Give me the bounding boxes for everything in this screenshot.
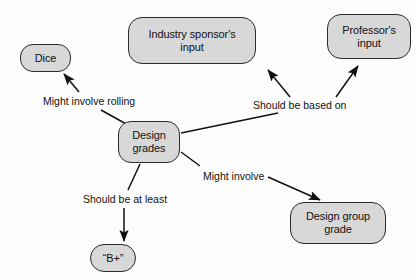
edge-label-should-be-at-least: Should be at least — [81, 193, 169, 205]
node-dice[interactable]: Dice — [20, 44, 71, 72]
node-industry-sponsors-input-label: Industry sponsor's input — [144, 28, 239, 54]
node-professors-input[interactable]: Professor's input — [327, 14, 411, 59]
edge-label-might-involve: Might involve — [201, 170, 266, 182]
node-industry-sponsors-input[interactable]: Industry sponsor's input — [128, 17, 256, 64]
node-design-grades[interactable]: Design grades — [118, 121, 180, 163]
node-design-group-grade-label: Design group grade — [302, 210, 374, 236]
node-design-grades-label: Design grades — [128, 129, 170, 155]
node-professors-input-label: Professor's input — [338, 24, 400, 50]
node-design-group-grade[interactable]: Design group grade — [290, 202, 386, 244]
edge-label-should-be-based-on: Should be based on — [251, 99, 348, 111]
diagram-canvas: Dice Industry sponsor's input Professor'… — [0, 0, 418, 280]
node-b-plus[interactable]: “B+” — [90, 244, 136, 272]
node-b-plus-label: “B+” — [99, 252, 128, 265]
node-dice-label: Dice — [31, 52, 61, 65]
edge-label-might-involve-rolling: Might involve rolling — [41, 95, 137, 107]
